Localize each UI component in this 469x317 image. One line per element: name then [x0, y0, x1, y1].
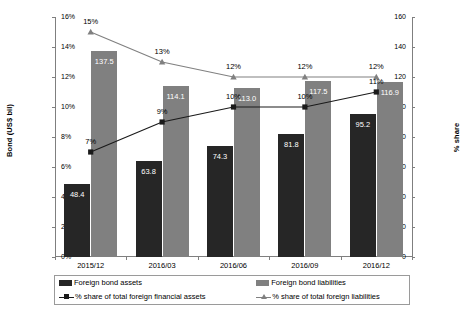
- line-marker-square: [160, 119, 165, 124]
- x-axis-category-label: 2016/03: [126, 262, 197, 270]
- x-axis-tick: [126, 257, 127, 260]
- line-point-label: 11%: [356, 78, 396, 86]
- line-marker-square: [302, 104, 307, 109]
- chart-legend: Foreign bond assetsForeign bond liabilit…: [54, 275, 410, 305]
- y-axis-right-title: % share: [452, 103, 461, 173]
- legend-line-marker-icon: [59, 293, 74, 301]
- x-axis-category-label: 2016/06: [198, 262, 269, 270]
- y-axis-right-tick: [412, 107, 415, 108]
- legend-item[interactable]: Foreign bond assets: [59, 279, 256, 287]
- line-point-label: 10%: [285, 93, 325, 101]
- line-marker-triangle: [88, 29, 94, 35]
- line-point-label: 7%: [71, 138, 111, 146]
- line-point-label: 13%: [142, 48, 182, 56]
- legend-label: % share of total foreign financial asset…: [75, 293, 206, 301]
- x-axis-tick: [412, 257, 413, 260]
- legend-line-marker-icon: [256, 293, 271, 301]
- x-axis-category-label: 2016/09: [269, 262, 340, 270]
- y-axis-right-tick: [412, 17, 415, 18]
- y-axis-left-title: Bond (US$ bil): [5, 91, 14, 171]
- line-point-label: 12%: [285, 63, 325, 71]
- x-axis-category-label: 2015/12: [55, 262, 126, 270]
- legend-label: % share of total foreign liabilities: [272, 293, 380, 301]
- legend-swatch-icon: [256, 280, 269, 286]
- legend-label: Foreign bond liabilities: [271, 279, 346, 287]
- line-point-label: 15%: [71, 18, 111, 26]
- line-point-label: 9%: [142, 108, 182, 116]
- y-axis-right-tick: [412, 47, 415, 48]
- legend-swatch-icon: [59, 280, 72, 286]
- legend-item[interactable]: % share of total foreign liabilities: [256, 293, 405, 301]
- x-axis-tick: [341, 257, 342, 260]
- line-series-layer: [55, 17, 412, 257]
- y-axis-right-tick: [412, 137, 415, 138]
- chart-container: Bond (US$ bil) % share 02040608010012014…: [0, 0, 469, 317]
- line-point-label: 10%: [214, 93, 254, 101]
- line-marker-square: [231, 104, 236, 109]
- line-point-label: 12%: [214, 63, 254, 71]
- line-path: [91, 92, 377, 152]
- line-point-label: 12%: [356, 63, 396, 71]
- y-axis-right-tick: [412, 197, 415, 198]
- legend-label: Foreign bond assets: [74, 279, 142, 287]
- plot-area: 020406080100120140160 0%2%4%6%8%10%12%14…: [55, 17, 412, 257]
- x-axis-tick: [269, 257, 270, 260]
- line-marker-square: [88, 149, 93, 154]
- x-axis-tick: [55, 257, 56, 260]
- line-marker-square: [374, 89, 379, 94]
- y-axis-right-tick: [412, 77, 415, 78]
- legend-item[interactable]: Foreign bond liabilities: [256, 279, 405, 287]
- legend-item[interactable]: % share of total foreign financial asset…: [59, 293, 256, 301]
- x-axis-tick: [198, 257, 199, 260]
- y-axis-right-tick: [412, 227, 415, 228]
- x-axis-category-label: 2016/12: [341, 262, 412, 270]
- y-axis-right-tick: [412, 167, 415, 168]
